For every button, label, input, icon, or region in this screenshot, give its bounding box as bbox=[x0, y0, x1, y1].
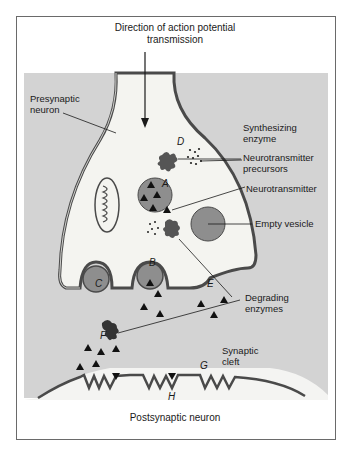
label-cleft-1: Synaptic bbox=[222, 345, 258, 356]
figure-title-line2: transmission bbox=[0, 34, 350, 46]
letter-c: C bbox=[95, 278, 102, 289]
label-empty-vesicle: Empty vesicle bbox=[255, 218, 314, 229]
label-neurotransmitter: Neurotransmitter bbox=[246, 183, 317, 194]
label-cleft-2: cleft bbox=[222, 356, 239, 367]
letter-g: G bbox=[200, 360, 208, 371]
label-postsynaptic: Postsynaptic neuron bbox=[0, 412, 350, 423]
label-presynaptic-2: neuron bbox=[30, 104, 60, 115]
mitochondrion bbox=[95, 178, 119, 232]
label-presynaptic-1: Presynaptic bbox=[30, 93, 80, 104]
letter-h: H bbox=[168, 391, 175, 402]
letter-d: D bbox=[177, 136, 184, 147]
letter-f: F bbox=[100, 330, 106, 341]
letter-e: E bbox=[207, 278, 214, 289]
figure-title-line1: Direction of action potential bbox=[0, 22, 350, 34]
label-precursors-1: Neurotransmitter bbox=[243, 152, 314, 163]
label-synthesizing-1: Synthesizing bbox=[243, 122, 297, 133]
label-degrading-1: Degrading bbox=[245, 292, 289, 303]
label-degrading-2: enzymes bbox=[245, 303, 283, 314]
letter-b: B bbox=[149, 257, 156, 268]
label-synthesizing-2: enzyme bbox=[243, 133, 276, 144]
letter-a: A bbox=[162, 178, 169, 189]
label-precursors-2: precursors bbox=[243, 163, 288, 174]
